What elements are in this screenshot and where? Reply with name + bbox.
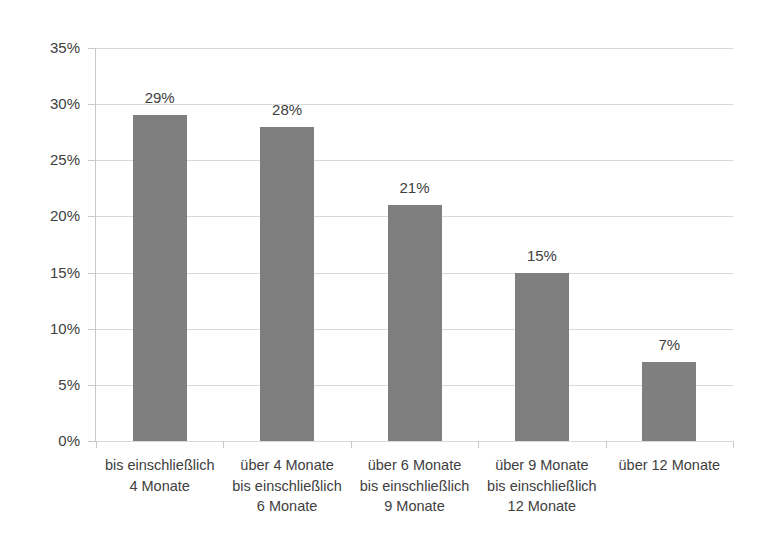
gridline (96, 160, 733, 161)
bar (642, 362, 696, 441)
y-tick-mark (88, 216, 96, 217)
y-tick-mark (88, 441, 96, 442)
category-label-line: bis einschließlich (478, 476, 605, 497)
category-label-line: bis einschließlich (96, 455, 223, 476)
x-tick-mark (478, 441, 479, 448)
x-axis-category-label: über 4 Monatebis einschließlich6 Monate (223, 455, 350, 517)
category-label-line: über 6 Monate (351, 455, 478, 476)
y-tick-mark (88, 160, 96, 161)
category-label-line: bis einschließlich (351, 476, 478, 497)
y-axis-tick-label: 15% (34, 265, 80, 280)
y-axis-tick-label: 35% (34, 40, 80, 55)
y-axis-tick-label: 20% (34, 208, 80, 223)
bar (388, 205, 442, 441)
y-axis-tick-label: 30% (34, 96, 80, 111)
bar-value-label: 28% (247, 102, 327, 117)
category-label-line: 12 Monate (478, 496, 605, 517)
category-label-line: 6 Monate (223, 496, 350, 517)
x-tick-mark (223, 441, 224, 448)
x-tick-mark (96, 441, 97, 448)
y-tick-mark (88, 329, 96, 330)
x-axis-category-label: bis einschließlich4 Monate (96, 455, 223, 496)
y-tick-mark (88, 104, 96, 105)
bar-value-label: 21% (375, 180, 455, 195)
bar-value-label: 15% (502, 248, 582, 263)
bar (260, 127, 314, 441)
y-tick-mark (88, 385, 96, 386)
gridline (96, 48, 733, 49)
x-axis-category-label: über 6 Monatebis einschließlich9 Monate (351, 455, 478, 517)
x-tick-mark (351, 441, 352, 448)
plot-area: 29%28%21%15%7% (96, 48, 733, 441)
y-tick-mark (88, 273, 96, 274)
y-tick-mark (88, 48, 96, 49)
category-label-line: über 12 Monate (606, 455, 733, 476)
y-axis-tick-label: 0% (34, 433, 80, 448)
bar-value-label: 7% (629, 337, 709, 352)
bar (133, 115, 187, 441)
category-label-line: über 9 Monate (478, 455, 605, 476)
bar-value-label: 29% (120, 90, 200, 105)
x-axis-category-label: über 12 Monate (606, 455, 733, 476)
bar-chart: 0%5%10%15%20%25%30%35% 29%28%21%15%7% bi… (0, 0, 773, 546)
x-tick-mark (733, 441, 734, 448)
y-axis-tick-label: 25% (34, 152, 80, 167)
bar (515, 273, 569, 441)
category-label-line: über 4 Monate (223, 455, 350, 476)
category-label-line: bis einschließlich (223, 476, 350, 497)
category-label-line: 4 Monate (96, 476, 223, 497)
x-tick-mark (606, 441, 607, 448)
x-axis-category-label: über 9 Monatebis einschließlich12 Monate (478, 455, 605, 517)
category-label-line: 9 Monate (351, 496, 478, 517)
y-axis-tick-label: 5% (34, 377, 80, 392)
gridline (96, 441, 733, 442)
y-axis-tick-label: 10% (34, 321, 80, 336)
